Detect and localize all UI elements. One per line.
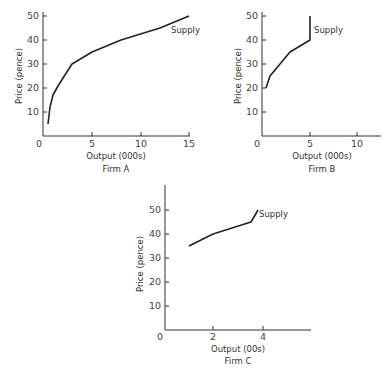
firm-c-axes: [165, 185, 311, 330]
chart-firm-b: 50 40 30 20 10 0 5 10 Output (000s) Firm…: [233, 10, 381, 174]
chart-firm-c: 50 40 30 20 10 0 2 4 Output (00s) Firm C…: [135, 185, 311, 366]
firm-b-ytick-30: 30: [246, 58, 258, 69]
firm-c-supply-label: Supply: [259, 209, 288, 219]
firm-b-ytick-20: 20: [246, 82, 258, 93]
firm-b-xtick-10: 10: [351, 138, 363, 149]
firm-a-supply-label: Supply: [171, 25, 200, 35]
firm-c-xtick-2: 2: [210, 331, 216, 342]
firm-b-origin: 0: [254, 138, 260, 149]
firm-c-supply-curve: [189, 210, 258, 246]
firm-c-ytick-30: 30: [149, 252, 161, 263]
firm-a-ytick-30: 30: [27, 58, 39, 69]
firm-a-xlabel: Output (000s): [86, 151, 146, 161]
firm-c-xlabel: Output (00s): [211, 344, 265, 354]
firm-b-ytick-50: 50: [246, 10, 258, 21]
firm-b-ylabel: Price (pence): [233, 48, 243, 104]
firm-b-supply-label: Supply: [314, 25, 343, 35]
firm-b-xlabel: Output (000s): [292, 151, 352, 161]
firm-b-title: Firm B: [309, 164, 336, 174]
firm-a-xtick-15: 15: [183, 138, 195, 149]
firm-b-supply-curve: [266, 16, 310, 88]
firm-c-ytick-40: 40: [149, 228, 161, 239]
firm-b-ytick-10: 10: [246, 106, 258, 117]
firm-a-ytick-40: 40: [27, 34, 39, 45]
firm-a-title: Firm A: [103, 164, 130, 174]
firm-b-ytick-40: 40: [246, 34, 258, 45]
chart-firm-a: 50 40 30 20 10 0 5 10 15 Output (000s) F…: [14, 10, 200, 174]
firm-c-ytick-10: 10: [149, 300, 161, 311]
firm-c-origin: 0: [157, 331, 163, 342]
firm-c-ytick-50: 50: [149, 204, 161, 215]
firm-a-ylabel: Price (pence): [14, 48, 24, 104]
firm-c-title: Firm C: [225, 356, 252, 366]
firm-a-ytick-50: 50: [27, 10, 39, 21]
firm-b-xtick-5: 5: [307, 138, 313, 149]
firm-c-ylabel: Price (pence): [135, 236, 145, 292]
supply-curves-figure: 50 40 30 20 10 0 5 10 15 Output (000s) F…: [0, 0, 392, 371]
firm-c-ytick-20: 20: [149, 276, 161, 287]
firm-c-xtick-4: 4: [260, 331, 266, 342]
firm-a-xtick-5: 5: [89, 138, 95, 149]
firm-a-ytick-20: 20: [27, 82, 39, 93]
firm-a-xtick-10: 10: [135, 138, 147, 149]
firm-a-supply-curve: [48, 16, 189, 124]
firm-a-origin: 0: [36, 138, 42, 149]
firm-a-ytick-10: 10: [27, 106, 39, 117]
